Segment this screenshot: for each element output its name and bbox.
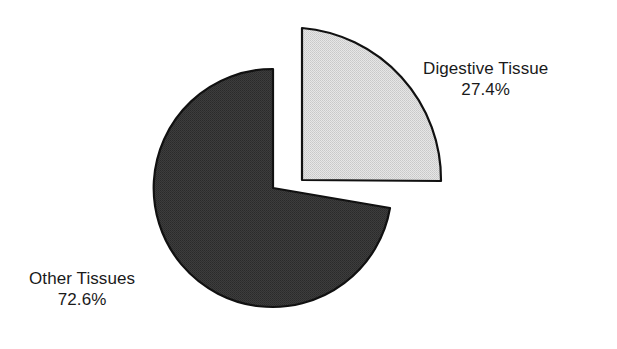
pie-label-other-tissues-name: Other Tissues [29,268,135,289]
pie-label-digestive-tissue-name: Digestive Tissue [423,58,548,79]
pie-chart-figure: Digestive Tissue 27.4% Other Tissues 72.… [0,0,617,349]
pie-label-digestive-tissue-percent: 27.4% [423,79,548,100]
pie-slice-digestive-tissue[interactable] [302,28,441,181]
pie-label-other-tissues-percent: 72.6% [29,289,135,310]
pie-label-other-tissues: Other Tissues 72.6% [29,268,135,310]
pie-label-digestive-tissue: Digestive Tissue 27.4% [423,58,548,100]
